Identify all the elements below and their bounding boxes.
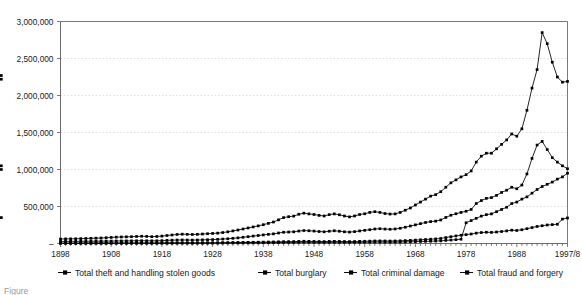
series-marker	[282, 240, 285, 243]
series-marker	[515, 229, 518, 232]
series-marker	[196, 239, 199, 242]
series-marker	[348, 216, 351, 219]
series-marker	[470, 208, 473, 211]
series-marker	[394, 213, 397, 216]
series-marker	[566, 167, 569, 170]
series-marker	[475, 232, 478, 235]
series-marker	[541, 140, 544, 143]
series-marker	[0, 74, 3, 77]
series-marker	[95, 242, 98, 245]
series-marker	[0, 164, 3, 167]
series-marker	[521, 184, 524, 187]
series-marker	[475, 217, 478, 220]
series-marker	[439, 237, 442, 240]
series-marker	[226, 241, 229, 244]
series-marker	[368, 211, 371, 214]
series-marker	[221, 241, 224, 244]
y-axis-tick-label: 3,000,000	[17, 17, 54, 27]
series-marker	[130, 242, 133, 245]
series-marker	[546, 224, 549, 227]
series-marker	[313, 230, 316, 233]
series-marker	[414, 204, 417, 207]
series-marker	[64, 242, 67, 245]
series-marker	[343, 215, 346, 218]
series-marker	[186, 233, 189, 236]
caption-text: Figure	[4, 286, 29, 295]
series-marker	[384, 240, 387, 243]
series-marker	[429, 238, 432, 241]
series-marker	[399, 227, 402, 230]
series-marker	[343, 240, 346, 243]
series-marker	[460, 238, 463, 241]
series-marker	[308, 213, 311, 216]
series-marker	[348, 240, 351, 243]
series-marker	[460, 211, 463, 214]
legend-marker-square	[349, 270, 353, 274]
series-marker	[292, 230, 295, 233]
series-marker	[166, 234, 169, 237]
series-marker	[566, 172, 569, 175]
series-marker	[85, 242, 88, 245]
series-marker	[95, 237, 98, 240]
series-marker	[470, 170, 473, 173]
series-marker	[287, 231, 290, 234]
series-marker	[536, 68, 539, 71]
series-marker	[556, 178, 559, 181]
series-marker	[201, 241, 204, 244]
series-marker	[206, 241, 209, 244]
series-marker	[429, 195, 432, 198]
series-marker	[450, 214, 453, 217]
series-marker	[541, 31, 544, 34]
series-marker	[262, 223, 265, 226]
series-marker	[439, 190, 442, 193]
series-marker	[161, 239, 164, 242]
series-marker	[480, 199, 483, 202]
series-marker	[561, 176, 564, 179]
chart-background	[0, 0, 582, 295]
crime-statistics-line-chart: 3,000,0002,500,0002,000,0001,500,0001,00…	[0, 0, 582, 295]
series-marker	[389, 228, 392, 231]
series-marker	[171, 242, 174, 245]
series-marker	[526, 227, 529, 230]
series-marker	[297, 213, 300, 216]
legend-marker-square	[465, 270, 469, 274]
series-marker	[338, 240, 341, 243]
legend-item-0[interactable]: Total theft and handling stolen goods	[58, 268, 215, 278]
series-marker	[531, 157, 534, 160]
series-marker	[465, 210, 468, 213]
x-axis-tick-label: 1918	[153, 249, 172, 259]
series-marker	[338, 213, 341, 216]
series-marker	[561, 164, 564, 167]
series-marker	[64, 238, 67, 241]
series-marker	[485, 197, 488, 200]
series-marker	[444, 186, 447, 189]
series-marker	[59, 242, 62, 245]
series-marker	[358, 230, 361, 233]
series-marker	[318, 214, 321, 217]
series-marker	[303, 212, 306, 215]
series-marker	[211, 241, 214, 244]
series-marker	[247, 227, 250, 230]
series-marker	[409, 239, 412, 242]
series-marker	[444, 239, 447, 242]
series-marker	[480, 155, 483, 158]
series-marker	[439, 219, 442, 222]
series-marker	[237, 241, 240, 244]
series-marker	[211, 238, 214, 241]
series-marker	[353, 240, 356, 243]
series-marker	[0, 78, 3, 81]
series-marker	[232, 230, 235, 233]
series-marker	[267, 222, 270, 225]
series-marker	[252, 226, 255, 229]
series-marker	[541, 224, 544, 227]
series-marker	[409, 207, 412, 210]
series-marker	[232, 241, 235, 244]
series-marker	[308, 240, 311, 243]
series-marker	[546, 148, 549, 151]
series-marker	[444, 236, 447, 239]
series-marker	[135, 235, 138, 238]
series-marker	[490, 196, 493, 199]
series-marker	[368, 228, 371, 231]
series-marker	[191, 239, 194, 242]
series-marker	[120, 242, 123, 245]
